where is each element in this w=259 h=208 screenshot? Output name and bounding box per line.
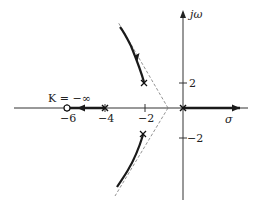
y-tick-label: 2 (189, 77, 196, 90)
zero-marker-minus6 (64, 105, 70, 111)
root-locus-diagram: −6 −4 −2 2 −2 jω σ K = −∞ (0, 0, 259, 208)
y-tick-label: −2 (187, 132, 203, 145)
locus-branch-lower (117, 135, 143, 187)
locus-arrow-icon (232, 105, 240, 112)
x-tick-label: −2 (138, 112, 154, 125)
imaginary-axis-arrow-icon (180, 10, 186, 18)
x-tick-label: −6 (60, 112, 76, 125)
x-tick-label: −4 (98, 112, 114, 125)
locus-branch-upper (120, 27, 144, 82)
imaginary-axis-label: jω (187, 8, 202, 21)
locus-arrow-icon (77, 105, 85, 112)
real-axis-label: σ (225, 113, 233, 126)
gain-annotation: K = −∞ (48, 92, 91, 105)
